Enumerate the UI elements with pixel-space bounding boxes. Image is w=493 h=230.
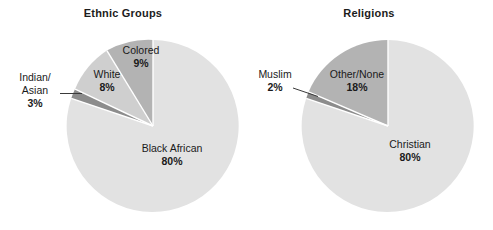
pie-label-christian-name: Christian: [389, 138, 431, 150]
pie-label-christian-pct: 80%: [399, 151, 421, 163]
pie-label-black-african-name: Black African: [142, 142, 203, 154]
pie-label-other-none-pct: 18%: [346, 81, 368, 93]
pie-label-indian-asian-pct: 3%: [27, 97, 43, 109]
pie-label-indian-asian-name-line2: Asian: [22, 84, 48, 96]
pie-label-colored-name: Colored: [123, 44, 160, 56]
pie-label-other-none-name: Other/None: [330, 68, 384, 80]
pie-label-muslim-name: Muslim: [258, 68, 292, 80]
pie-label-black-african-pct: 80%: [161, 155, 183, 167]
pie-label-muslim-pct: 2%: [267, 81, 283, 93]
pie-chart-religions: Christian 80% Other/None 18% Muslim 2%: [246, 0, 492, 230]
pie-label-muslim: Muslim 2%: [258, 68, 292, 93]
pie-label-colored-pct: 9%: [133, 57, 149, 69]
pie-chart-ethnic-groups: Black African 80% Colored 9% White 8% In…: [0, 0, 246, 230]
pie-chart-figure: Ethnic Groups Black African 80: [0, 0, 493, 230]
pie-label-white-name: White: [94, 68, 121, 80]
pie-label-white-pct: 8%: [99, 81, 115, 93]
chart-panel-religions: Religions Christian 80% Other/None: [246, 0, 492, 230]
pie-label-indian-asian: Indian/ Asian 3%: [19, 71, 51, 109]
pie-label-indian-asian-name-line1: Indian/: [19, 71, 51, 83]
chart-panel-ethnic-groups: Ethnic Groups Black African 80: [0, 0, 246, 230]
